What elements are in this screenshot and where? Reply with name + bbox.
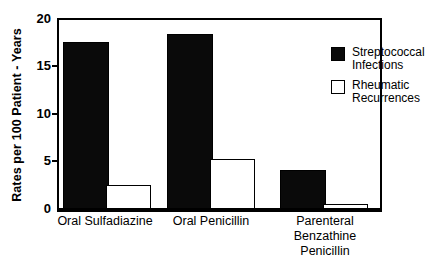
y-tick-label-10: 10: [25, 107, 51, 120]
legend-swatch-open-icon: [331, 80, 345, 94]
legend-swatch-filled-icon: [331, 47, 345, 61]
legend-item-streptococcal-infections: Streptococcal Infections: [331, 46, 429, 72]
bar-streptococcal-parenteral-benzathine-penicillin: [280, 170, 326, 210]
y-tick-label-5: 5: [25, 154, 51, 167]
legend-item-rheumatic-recurrences: Rheumatic Recurrences: [331, 79, 429, 105]
y-tick-label-20: 20: [25, 12, 51, 25]
y-tick-label-0: 0: [25, 202, 51, 215]
bar-streptococcal-oral-penicillin: [167, 34, 213, 210]
legend-label-rheumatic-recurrences: Rheumatic Recurrences: [352, 79, 420, 105]
bar-rheumatic-oral-sulfadiazine: [106, 185, 151, 210]
x-category-label-oral-sulfadiazine: Oral Sulfadiazine: [50, 214, 160, 229]
x-category-label-parenteral-benzathine-penicillin: Parenteral Benzathine Penicillin: [272, 214, 378, 259]
chart-legend: Streptococcal Infections Rheumatic Recur…: [331, 46, 429, 112]
y-tick-label-15: 15: [25, 59, 51, 72]
bar-streptococcal-oral-sulfadiazine: [63, 42, 109, 210]
y-axis-tick-labels: 20 15 10 5 0: [22, 0, 51, 273]
x-axis-baseline: [57, 208, 382, 210]
x-category-label-oral-penicillin: Oral Penicillin: [160, 214, 262, 229]
legend-label-streptococcal-infections: Streptococcal Infections: [352, 46, 425, 72]
bar-rheumatic-oral-penicillin: [210, 159, 255, 210]
plot-area: Streptococcal Infections Rheumatic Recur…: [57, 18, 382, 212]
